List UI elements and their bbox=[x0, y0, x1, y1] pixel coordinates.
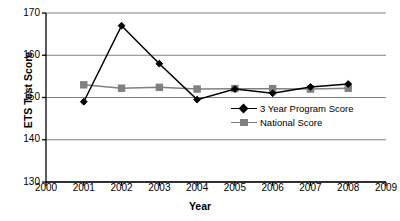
x-axis-tick-label: 2002 bbox=[101, 182, 143, 193]
square-marker-icon bbox=[231, 116, 257, 128]
x-axis-tick-label: 2003 bbox=[138, 182, 180, 193]
x-axis-tick-label: 2009 bbox=[365, 182, 400, 193]
diamond-marker-icon bbox=[231, 102, 257, 114]
data-point-marker bbox=[118, 85, 124, 91]
data-point-marker bbox=[156, 84, 162, 90]
x-axis-tick-label: 2005 bbox=[214, 182, 256, 193]
x-axis-tick-label: 2007 bbox=[289, 182, 331, 193]
chart-legend: 3 Year Program ScoreNational Score bbox=[231, 101, 353, 129]
x-axis-tick-label: 2000 bbox=[25, 182, 67, 193]
legend-label: National Score bbox=[257, 117, 322, 128]
x-axis-tick-label: 2001 bbox=[63, 182, 105, 193]
legend-item: National Score bbox=[231, 115, 353, 129]
chart-container: ETS Test Score 170160150140130 200020012… bbox=[0, 0, 400, 221]
data-point-marker bbox=[194, 86, 200, 92]
legend-item: 3 Year Program Score bbox=[231, 101, 353, 115]
data-point-marker bbox=[80, 98, 87, 105]
x-axis-title: Year bbox=[0, 200, 400, 212]
x-axis-tick-label: 2006 bbox=[252, 182, 294, 193]
data-point-marker bbox=[81, 82, 87, 88]
x-axis-tick-label: 2008 bbox=[327, 182, 369, 193]
x-axis-tick-label: 2004 bbox=[176, 182, 218, 193]
legend-label: 3 Year Program Score bbox=[257, 103, 353, 114]
